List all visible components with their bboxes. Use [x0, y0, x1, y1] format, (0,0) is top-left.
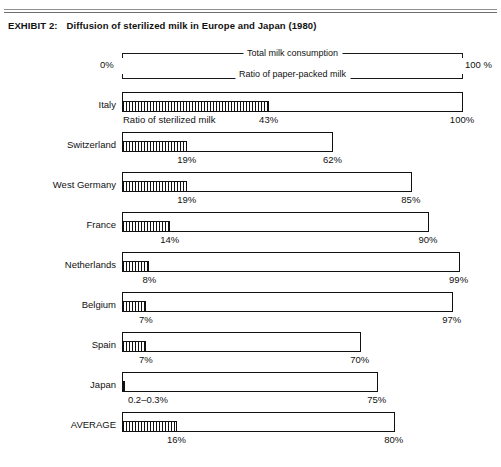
- value-label-paper-packed: 62%: [323, 154, 342, 165]
- legend-sterilized-milk: Ratio of sterilized milk: [123, 114, 215, 125]
- value-label-sterilized: 7%: [139, 354, 153, 365]
- axis-max-label: 100 %: [465, 59, 492, 70]
- value-label-sterilized: 16%: [167, 434, 186, 445]
- row-label-italy: Italy: [99, 99, 116, 110]
- axis-min-label: 0%: [100, 59, 114, 70]
- bar-inner-sterilized: [122, 181, 187, 192]
- table-row: Belgium7%97%: [0, 290, 501, 330]
- bar-outer-paper-packed: [122, 372, 378, 392]
- bar-inner-sterilized: [122, 301, 146, 312]
- value-label-sterilized: 43%: [259, 114, 278, 125]
- row-label-japan: Japan: [90, 379, 116, 390]
- value-label-paper-packed: 75%: [367, 394, 386, 405]
- bar-inner-sterilized: [122, 221, 170, 232]
- row-label-netherlands: Netherlands: [65, 259, 116, 270]
- row-label-belgium: Belgium: [82, 299, 116, 310]
- bar-inner-sterilized: [122, 141, 187, 152]
- value-label-sterilized: 19%: [177, 194, 196, 205]
- value-label-paper-packed: 70%: [350, 354, 369, 365]
- row-label-west-germany: West Germany: [53, 179, 116, 190]
- bar-inner-sterilized: [122, 341, 146, 352]
- value-label-sterilized: 0.2–0.3%: [128, 394, 168, 405]
- table-row: West Germany19%85%: [0, 170, 501, 210]
- row-label-spain: Spain: [92, 339, 116, 350]
- bar-outer-paper-packed: [122, 252, 460, 272]
- value-label-sterilized: 19%: [177, 154, 196, 165]
- table-row: Spain7%70%: [0, 330, 501, 370]
- value-label-paper-packed: 80%: [384, 434, 403, 445]
- scale-header: Total milk consumption Ratio of paper-pa…: [122, 53, 463, 81]
- legend-paper-packed-milk: Ratio of paper-packed milk: [235, 70, 350, 79]
- table-row: France14%90%: [0, 210, 501, 250]
- bar-inner-sterilized: [122, 381, 125, 392]
- table-row: AVERAGE16%80%: [0, 410, 501, 450]
- table-row: ItalyRatio of sterilized milk43%100%: [0, 90, 501, 130]
- value-label-sterilized: 14%: [160, 234, 179, 245]
- row-label-france: France: [86, 219, 116, 230]
- bar-outer-paper-packed: [122, 332, 361, 352]
- chart-canvas: Total milk consumption Ratio of paper-pa…: [0, 0, 501, 467]
- value-label-paper-packed: 85%: [401, 194, 420, 205]
- value-label-paper-packed: 99%: [449, 274, 468, 285]
- legend-total-milk-consumption: Total milk consumption: [243, 49, 342, 58]
- value-label-sterilized: 7%: [139, 314, 153, 325]
- table-row: Netherlands8%99%: [0, 250, 501, 290]
- bar-inner-sterilized: [122, 421, 177, 432]
- row-label-switzerland: Switzerland: [67, 139, 116, 150]
- value-label-paper-packed: 90%: [418, 234, 437, 245]
- value-label-paper-packed: 97%: [442, 314, 461, 325]
- value-label-sterilized: 8%: [142, 274, 156, 285]
- table-row: Switzerland19%62%: [0, 130, 501, 170]
- bar-outer-paper-packed: [122, 292, 453, 312]
- value-label-paper-packed: 100%: [450, 114, 474, 125]
- table-row: Japan0.2–0.3%75%: [0, 370, 501, 410]
- bar-inner-sterilized: [122, 261, 149, 272]
- bar-inner-sterilized: [122, 101, 269, 112]
- row-label-average: AVERAGE: [71, 419, 116, 430]
